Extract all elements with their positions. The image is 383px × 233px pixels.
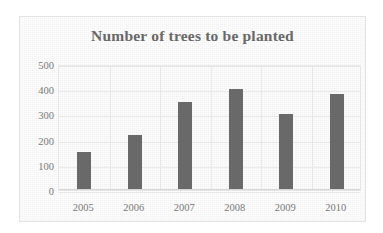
- y-axis-labels: 0100200300400500: [20, 65, 54, 191]
- chart-title: Number of trees to be planted: [20, 27, 365, 45]
- bar-2008: [229, 89, 243, 190]
- x-axis-tick-label-2010: 2010: [325, 202, 346, 213]
- gridline-x: [110, 66, 111, 190]
- y-axis-tick-label: 100: [20, 160, 54, 171]
- y-axis-tick-label: 300: [20, 110, 54, 121]
- y-axis-tick-label: 200: [20, 135, 54, 146]
- y-axis-tick-label: 0: [20, 186, 54, 197]
- gridline-x: [312, 66, 313, 190]
- gridline-y-100: [59, 167, 360, 168]
- gridline-x: [160, 66, 161, 190]
- x-axis-tick-label-2005: 2005: [73, 202, 94, 213]
- x-axis-tick-label-2006: 2006: [123, 202, 144, 213]
- chart-frame: Number of trees to be planted 0100200300…: [19, 16, 366, 222]
- bar-2005: [77, 152, 91, 190]
- gridline-x: [261, 66, 262, 190]
- plot-area: [58, 65, 361, 191]
- bar-2006: [128, 135, 142, 190]
- gridline-x: [211, 66, 212, 190]
- y-axis-tick-label: 400: [20, 85, 54, 96]
- gridline-y-500: [59, 66, 360, 67]
- x-axis-labels: 200520062007200820092010: [58, 197, 361, 213]
- gridline-y-200: [59, 142, 360, 143]
- x-axis-tick-label-2008: 2008: [224, 202, 245, 213]
- x-axis-tick-label-2007: 2007: [174, 202, 195, 213]
- y-axis-tick-label: 500: [20, 60, 54, 71]
- x-axis-line: [59, 189, 360, 190]
- bar-2009: [279, 114, 293, 190]
- bar-2007: [178, 102, 192, 190]
- gridline-y-0: [59, 192, 360, 193]
- x-axis-tick-label-2009: 2009: [275, 202, 296, 213]
- gridline-y-400: [59, 91, 360, 92]
- gridline-y-300: [59, 116, 360, 117]
- bar-2010: [330, 94, 344, 190]
